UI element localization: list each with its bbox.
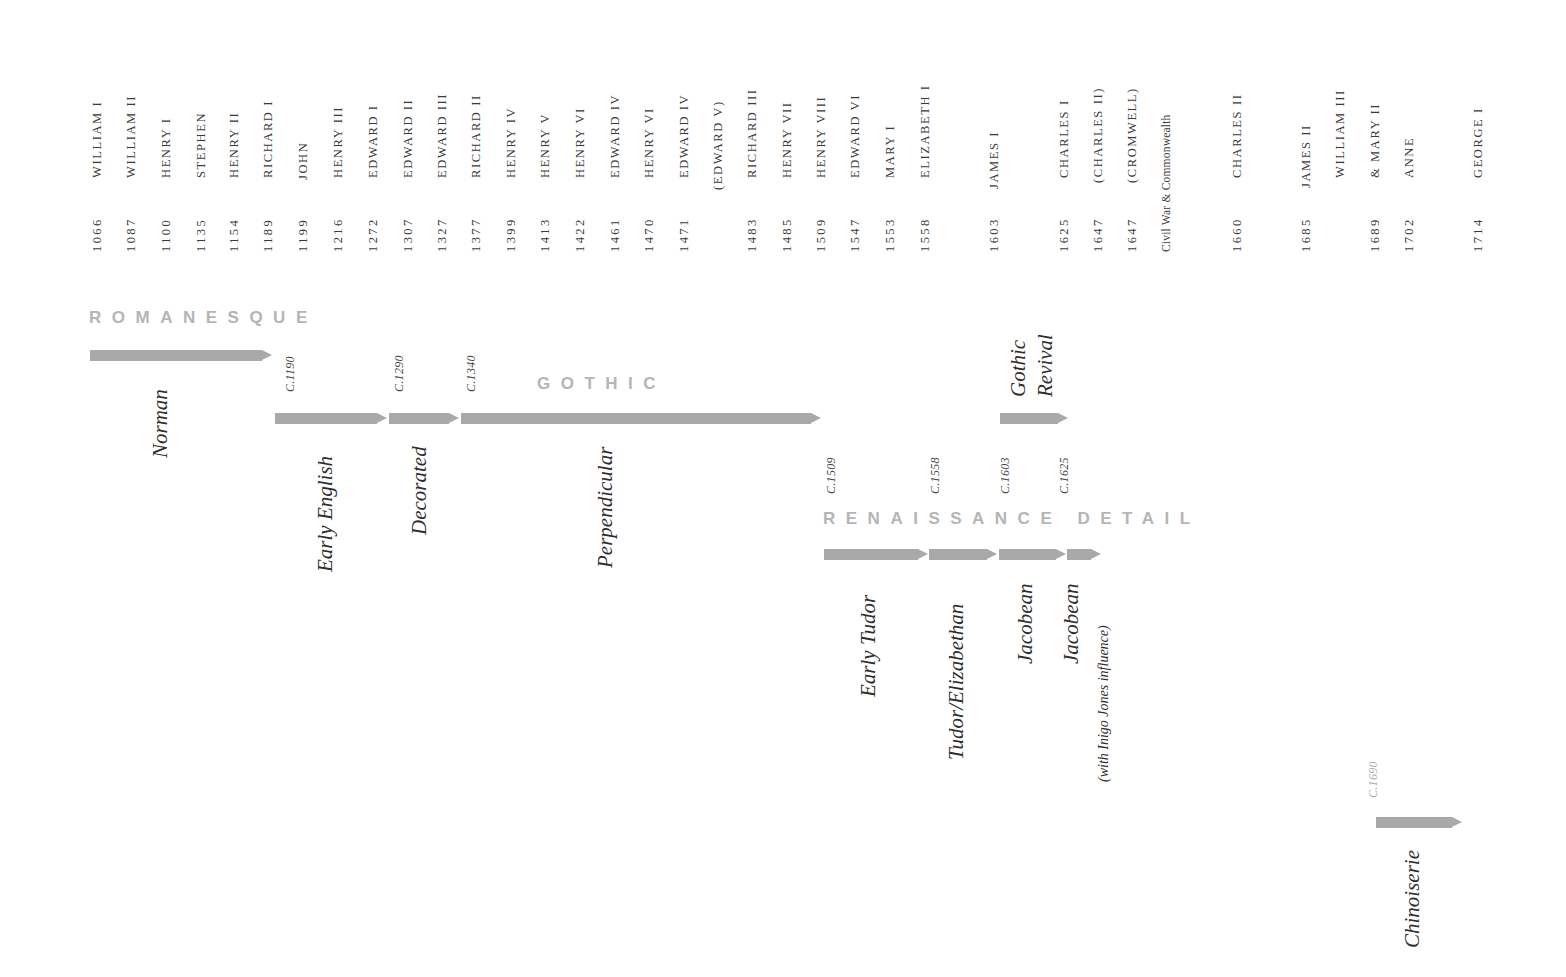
monarch-name: ANNE bbox=[1402, 137, 1417, 178]
style-label-chinoiserie: Chinoiserie bbox=[1400, 850, 1425, 948]
arrow-jacobean bbox=[999, 549, 1066, 560]
monarch-name: GEORGE I bbox=[1471, 107, 1486, 178]
monarch-name: EDWARD III bbox=[435, 93, 450, 178]
accession-year: 1377 bbox=[469, 217, 484, 252]
monarch-name: HENRY I bbox=[159, 118, 174, 178]
accession-year: 1689 bbox=[1368, 217, 1383, 252]
accession-year: 1470 bbox=[642, 217, 657, 252]
civil-war-label: Civil War & Commonwealth bbox=[1160, 115, 1172, 253]
monarch-name: RICHARD I bbox=[261, 100, 276, 178]
monarch-name: (CHARLES II) bbox=[1091, 87, 1106, 183]
monarch-name: CHARLES II bbox=[1230, 94, 1245, 178]
monarch-name: HENRY VI bbox=[642, 107, 657, 178]
monarch-name: JOHN bbox=[296, 142, 311, 180]
style-label-early-english: Early English bbox=[313, 456, 338, 572]
accession-year: 1625 bbox=[1057, 217, 1072, 252]
accession-year: 1135 bbox=[194, 218, 209, 252]
style-label-decorated: Decorated bbox=[407, 446, 432, 535]
monarch-name: RICHARD II bbox=[469, 94, 484, 178]
accession-year: 1509 bbox=[814, 217, 829, 252]
monarch-name: RICHARD III bbox=[745, 89, 760, 178]
accession-year: 1461 bbox=[608, 217, 623, 252]
accession-year: 1660 bbox=[1230, 217, 1245, 252]
accession-year: 1272 bbox=[366, 217, 381, 252]
monarch-name: ELIZABETH I bbox=[918, 84, 933, 178]
accession-year: 1413 bbox=[538, 217, 553, 252]
monarch-name: HENRY III bbox=[331, 106, 346, 178]
arrow-gothic-revival bbox=[1000, 413, 1068, 424]
style-sublabel-inigo-jones: (with Inigo Jones influence) bbox=[1096, 625, 1112, 782]
accession-year: 1714 bbox=[1471, 217, 1486, 252]
monarch-name: CHARLES I bbox=[1057, 99, 1072, 178]
style-label-norman: Norman bbox=[148, 389, 173, 458]
circa-marker: C.1340 bbox=[464, 355, 479, 392]
accession-year: 1603 bbox=[987, 217, 1002, 252]
accession-year: 1558 bbox=[918, 217, 933, 252]
monarch-name: EDWARD I bbox=[366, 104, 381, 178]
circa-marker: C.1558 bbox=[928, 457, 943, 494]
accession-year: 1702 bbox=[1402, 217, 1417, 252]
style-label-gothic-revival: Gothic bbox=[1006, 340, 1031, 397]
style-label-jacobean-inigo: Jacobean bbox=[1059, 584, 1084, 664]
arrow-perpendicular bbox=[461, 413, 821, 424]
era-heading-romanesque: ROMANESQUE bbox=[89, 308, 318, 328]
style-label-perpendicular: Perpendicular bbox=[593, 447, 618, 568]
accession-year: 1066 bbox=[90, 217, 105, 252]
circa-marker: C.1509 bbox=[824, 457, 839, 494]
accession-year: 1399 bbox=[504, 217, 519, 252]
accession-year: 1483 bbox=[745, 217, 760, 252]
arrow-decorated bbox=[389, 413, 459, 424]
accession-year: 1485 bbox=[780, 217, 795, 252]
accession-year: 1154 bbox=[227, 218, 242, 252]
accession-year: 1327 bbox=[435, 217, 450, 252]
arrow-early-tudor bbox=[824, 549, 928, 560]
monarch-name: MARY I bbox=[883, 125, 898, 178]
circa-marker: C.1190 bbox=[283, 356, 298, 392]
era-heading-renaissance: RENAISSANCE DETAIL bbox=[823, 509, 1201, 529]
monarch-name: JAMES II bbox=[1299, 124, 1314, 188]
accession-year: 1422 bbox=[573, 217, 588, 252]
circa-marker: C.1625 bbox=[1057, 457, 1072, 494]
monarch-name: STEPHEN bbox=[194, 112, 209, 178]
arrow-early-english bbox=[275, 413, 387, 424]
accession-year: 1647 bbox=[1125, 217, 1140, 252]
era-heading-gothic: GOTHIC bbox=[537, 374, 666, 394]
arrow-tudor-elizabethan bbox=[929, 549, 997, 560]
monarch-name: EDWARD IV bbox=[608, 94, 623, 178]
accession-year: 1100 bbox=[159, 218, 174, 252]
circa-marker: C.1690 bbox=[1366, 761, 1381, 798]
monarch-name: JAMES I bbox=[987, 131, 1002, 189]
accession-year: 1216 bbox=[331, 217, 346, 252]
monarch-name: & MARY II bbox=[1368, 103, 1383, 178]
monarch-name: WILLIAM III bbox=[1333, 89, 1348, 178]
arrow-chinoiserie bbox=[1376, 817, 1462, 828]
accession-year: 1307 bbox=[401, 217, 416, 252]
monarch-name: HENRY VIII bbox=[814, 96, 829, 178]
monarch-name: EDWARD II bbox=[401, 99, 416, 178]
accession-year: 1547 bbox=[848, 217, 863, 252]
accession-year: 1553 bbox=[883, 217, 898, 252]
accession-year: 1189 bbox=[261, 218, 276, 252]
style-label-jacobean: Jacobean bbox=[1013, 584, 1038, 664]
monarch-name: HENRY V bbox=[538, 113, 553, 178]
arrow-norman bbox=[90, 350, 272, 361]
accession-year: 1471 bbox=[677, 217, 692, 252]
monarch-name: HENRY VII bbox=[780, 101, 795, 178]
monarch-name: (EDWARD V) bbox=[711, 100, 726, 190]
style-label-gothic-revival: Revival bbox=[1033, 334, 1058, 397]
arrow-jacobean-inigo bbox=[1067, 549, 1101, 560]
circa-marker: C.1290 bbox=[392, 355, 407, 392]
monarch-name: HENRY II bbox=[227, 112, 242, 178]
monarch-name: WILLIAM I bbox=[90, 101, 105, 178]
accession-year: 1199 bbox=[296, 218, 311, 252]
accession-year: 1647 bbox=[1091, 217, 1106, 252]
monarch-name: HENRY IV bbox=[504, 107, 519, 178]
monarch-name: WILLIAM II bbox=[124, 95, 139, 178]
monarch-name: EDWARD VI bbox=[848, 94, 863, 178]
monarch-name: EDWARD IV bbox=[677, 94, 692, 178]
accession-year: 1685 bbox=[1299, 217, 1314, 252]
style-label-tudor-elizabethan: Tudor/Elizabethan bbox=[944, 604, 969, 760]
monarch-name: (CROMWELL) bbox=[1125, 87, 1140, 183]
style-label-early-tudor: Early Tudor bbox=[856, 595, 881, 697]
circa-marker: C.1603 bbox=[998, 457, 1013, 494]
